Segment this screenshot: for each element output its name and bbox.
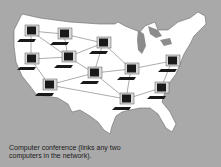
- figure-caption: Computer conference (links any two compu…: [9, 144, 209, 160]
- us-land-outline: [14, 12, 206, 134]
- us-network-map: [0, 0, 221, 167]
- caption-line-1: Computer conference (links any two: [9, 144, 209, 152]
- caption-line-2: computers in the network).: [9, 152, 209, 160]
